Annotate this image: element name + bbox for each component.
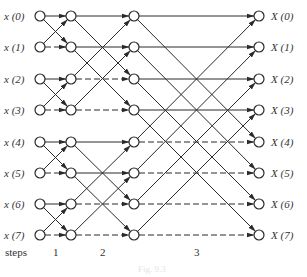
output-label-4: X (4) [270, 136, 294, 149]
node-c3-r3 [254, 105, 264, 115]
output-labels: X (0) X (1) X (2) X (3) X (4) X (5) X (6… [270, 10, 294, 242]
node-c3-r7 [254, 230, 264, 240]
node-c0-r4 [35, 137, 45, 147]
node-c2-r1 [129, 42, 139, 52]
input-label-7: x (7) [3, 229, 25, 242]
input-labels: x (0) x (1) x (2) x (3) x (4) x (5) x (6… [3, 10, 25, 242]
node-c0-r7 [35, 230, 45, 240]
step-2-label: 2 [100, 246, 106, 258]
node-c0-r5 [35, 168, 45, 178]
input-label-2: x (2) [3, 73, 25, 86]
output-label-0: X (0) [270, 10, 294, 23]
node-c2-r0 [129, 11, 139, 21]
input-label-0: x (0) [3, 10, 25, 23]
output-label-6: X (6) [270, 198, 294, 211]
figure-caption: Fig. 9.3 [138, 264, 166, 274]
steps-label: steps [5, 246, 27, 258]
node-c1-r4 [66, 137, 76, 147]
node-c1-r7 [66, 230, 76, 240]
input-label-4: x (4) [3, 136, 25, 149]
node-c1-r2 [66, 74, 76, 84]
node-c0-r3 [35, 105, 45, 115]
step-3-label: 3 [194, 246, 200, 258]
step-1-label: 1 [53, 246, 59, 258]
node-c0-r6 [35, 199, 45, 209]
node-c2-r5 [129, 168, 139, 178]
output-label-5: X (5) [270, 167, 294, 180]
node-c0-r0 [35, 11, 45, 21]
output-label-7: X (7) [270, 229, 294, 242]
node-c2-r3 [129, 105, 139, 115]
node-c3-r6 [254, 199, 264, 209]
node-c3-r5 [254, 168, 264, 178]
node-c3-r4 [254, 137, 264, 147]
node-c3-r2 [254, 74, 264, 84]
node-c3-r1 [254, 42, 264, 52]
input-label-6: x (6) [3, 198, 25, 211]
input-label-3: x (3) [3, 104, 25, 117]
node-c1-r3 [66, 105, 76, 115]
node-c2-r2 [129, 74, 139, 84]
node-c3-r0 [254, 11, 264, 21]
node-c2-r6 [129, 199, 139, 209]
node-c1-r5 [66, 168, 76, 178]
node-c1-r1 [66, 42, 76, 52]
node-c1-r6 [66, 199, 76, 209]
node-c1-r0 [66, 11, 76, 21]
steps-row: steps 1 2 3 [5, 246, 200, 258]
input-label-1: x (1) [3, 41, 25, 54]
output-label-3: X (3) [270, 104, 294, 117]
input-label-5: x (5) [3, 167, 25, 180]
node-c0-r2 [35, 74, 45, 84]
output-label-2: X (2) [270, 73, 294, 86]
node-c2-r4 [129, 137, 139, 147]
fft-butterfly-diagram: x (0) x (1) x (2) x (3) x (4) x (5) x (6… [0, 0, 307, 277]
node-c0-r1 [35, 42, 45, 52]
node-c2-r7 [129, 230, 139, 240]
output-label-1: X (1) [270, 41, 294, 54]
